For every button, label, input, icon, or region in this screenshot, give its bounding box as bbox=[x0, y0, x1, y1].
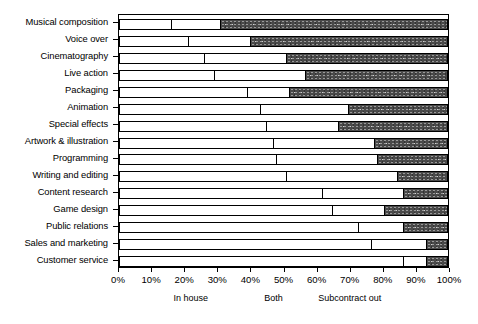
table-row bbox=[119, 49, 448, 66]
bar-segment-both bbox=[333, 206, 385, 215]
bar-segment-subcontract-out bbox=[385, 206, 447, 215]
y-axis-tick bbox=[113, 22, 118, 23]
bar-segment-both bbox=[172, 20, 221, 29]
x-axis-tick bbox=[449, 268, 450, 272]
legend-label-in-house: In house bbox=[174, 292, 209, 304]
bar-segment-both bbox=[287, 172, 398, 181]
x-axis-tick-label: 20% bbox=[175, 274, 194, 286]
bar-segment-both bbox=[359, 223, 405, 232]
x-axis-tick-label: 90% bbox=[406, 274, 425, 286]
bar-segment-both bbox=[267, 122, 339, 131]
bar-segment-in-house bbox=[120, 37, 189, 46]
bar-segment-in-house bbox=[120, 139, 274, 148]
bar-segment-in-house bbox=[120, 240, 372, 249]
category-label: Cinematography bbox=[41, 50, 108, 62]
bar-segment-in-house bbox=[120, 54, 205, 63]
bar-segment-in-house bbox=[120, 189, 323, 198]
x-axis-tick-label: 0% bbox=[111, 274, 125, 286]
bar-segment-subcontract-out bbox=[427, 257, 447, 266]
bar-segment-subcontract-out bbox=[251, 37, 447, 46]
table-row bbox=[119, 134, 448, 151]
table-row bbox=[119, 15, 448, 32]
legend-label-subcontract-out: Subcontract out bbox=[318, 292, 381, 304]
y-axis-tick bbox=[113, 39, 118, 40]
bar-segment-subcontract-out bbox=[375, 139, 447, 148]
bar-segment-in-house bbox=[120, 223, 359, 232]
chart-legend: In houseBothSubcontract out bbox=[0, 292, 478, 308]
x-axis-tick bbox=[284, 268, 285, 272]
stacked-bar bbox=[119, 138, 448, 149]
table-row bbox=[119, 167, 448, 184]
stacked-bar bbox=[119, 188, 448, 199]
y-axis-tick bbox=[113, 260, 118, 261]
table-row bbox=[119, 218, 448, 235]
x-axis-tick bbox=[118, 268, 119, 272]
stacked-bar bbox=[119, 239, 448, 250]
table-row bbox=[119, 235, 448, 252]
category-label: Game design bbox=[53, 203, 108, 215]
table-row bbox=[119, 32, 448, 49]
x-axis-tick bbox=[217, 268, 218, 272]
y-axis-tick bbox=[113, 243, 118, 244]
bar-segment-subcontract-out bbox=[306, 71, 447, 80]
y-axis-tick bbox=[113, 56, 118, 57]
stacked-bar bbox=[119, 53, 448, 64]
stacked-bar bbox=[119, 205, 448, 216]
category-label: Packaging bbox=[65, 84, 108, 96]
x-axis-tick-label: 80% bbox=[373, 274, 392, 286]
bar-segment-subcontract-out bbox=[404, 189, 447, 198]
bar-segment-subcontract-out bbox=[398, 172, 447, 181]
bar-segment-in-house bbox=[120, 257, 404, 266]
bar-segment-in-house bbox=[120, 122, 267, 131]
bar-segment-in-house bbox=[120, 20, 172, 29]
bar-segment-in-house bbox=[120, 172, 287, 181]
bar-segment-in-house bbox=[120, 105, 261, 114]
y-axis-tick bbox=[113, 158, 118, 159]
x-axis-tick bbox=[184, 268, 185, 272]
bar-segment-both bbox=[261, 105, 349, 114]
bar-segment-subcontract-out bbox=[349, 105, 447, 114]
stacked-bar bbox=[119, 104, 448, 115]
bar-segment-both bbox=[248, 88, 291, 97]
bar-segment-subcontract-out bbox=[287, 54, 447, 63]
table-row bbox=[119, 66, 448, 83]
x-axis-ticks bbox=[118, 268, 449, 273]
x-axis-tick bbox=[383, 268, 384, 272]
table-row bbox=[119, 252, 448, 269]
x-axis-tick-label: 70% bbox=[340, 274, 359, 286]
bar-segment-in-house bbox=[120, 155, 277, 164]
category-label: Programming bbox=[53, 152, 108, 164]
x-axis-tick-label: 30% bbox=[208, 274, 227, 286]
x-axis-tick-label: 40% bbox=[241, 274, 260, 286]
y-axis-tick bbox=[113, 192, 118, 193]
category-label: Animation bbox=[67, 101, 108, 113]
bar-segment-subcontract-out bbox=[378, 155, 447, 164]
table-row bbox=[119, 201, 448, 218]
x-axis-tick-label: 60% bbox=[307, 274, 326, 286]
bar-segment-both bbox=[372, 240, 428, 249]
stacked-bar-chart: Musical compositionVoice overCinematogra… bbox=[0, 0, 478, 324]
stacked-bar bbox=[119, 171, 448, 182]
category-label: Musical composition bbox=[25, 16, 108, 28]
category-label: Writing and editing bbox=[32, 169, 108, 181]
stacked-bar bbox=[119, 19, 448, 30]
bar-segment-in-house bbox=[120, 88, 248, 97]
bar-segment-both bbox=[274, 139, 375, 148]
y-axis-tick bbox=[113, 124, 118, 125]
stacked-bar bbox=[119, 154, 448, 165]
category-label: Customer service bbox=[37, 254, 108, 266]
stacked-bar bbox=[119, 87, 448, 98]
y-axis-tick bbox=[113, 107, 118, 108]
bar-segment-both bbox=[404, 257, 427, 266]
stacked-bar bbox=[119, 222, 448, 233]
table-row bbox=[119, 100, 448, 117]
bar-segment-both bbox=[277, 155, 378, 164]
category-label: Public relations bbox=[46, 220, 108, 232]
x-axis-tick-label: 50% bbox=[274, 274, 293, 286]
category-label: Artwork & illustration bbox=[25, 135, 108, 147]
plot-area bbox=[118, 14, 449, 268]
category-label: Voice over bbox=[65, 33, 108, 45]
bar-segment-subcontract-out bbox=[404, 223, 447, 232]
x-axis-tick-label: 100% bbox=[437, 274, 462, 286]
bar-segment-both bbox=[189, 37, 251, 46]
